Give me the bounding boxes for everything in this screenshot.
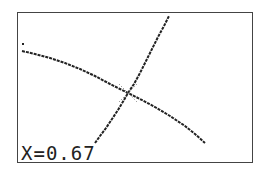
falling-curve (22, 51, 205, 143)
trace-cursor-icon (119, 84, 137, 102)
rising-curve (95, 16, 169, 143)
x-value-readout: X=0.67 (21, 143, 96, 163)
stray-pixel (22, 43, 24, 45)
